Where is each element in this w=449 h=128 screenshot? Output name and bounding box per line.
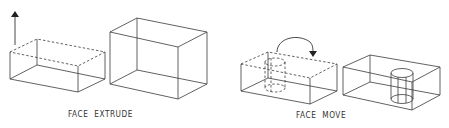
extrude-result-box xyxy=(110,18,207,99)
move-original-box xyxy=(241,52,337,104)
move-direction-arrow-icon xyxy=(277,37,313,54)
extrude-original-box xyxy=(10,39,105,92)
caption-face-extrude: FACE EXTRUDE xyxy=(68,110,133,119)
diagram-canvas xyxy=(0,0,449,128)
move-result-box xyxy=(343,55,440,110)
caption-face-move: FACE MOVE xyxy=(296,111,346,120)
